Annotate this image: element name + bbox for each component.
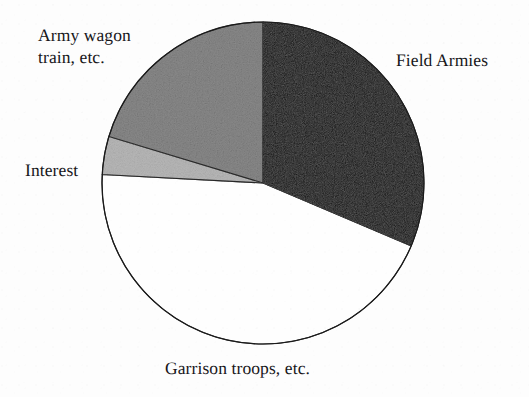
pie-label-interest: Interest [25, 160, 78, 182]
pie-label-field-armies: Field Armies [396, 50, 488, 72]
pie-chart-figure: Army wagon train, etc. Field Armies Inte… [0, 0, 529, 397]
pie-label-garrison-troops: Garrison troops, etc. [165, 358, 310, 380]
pie-label-army-wagon-train: Army wagon train, etc. [38, 25, 131, 69]
